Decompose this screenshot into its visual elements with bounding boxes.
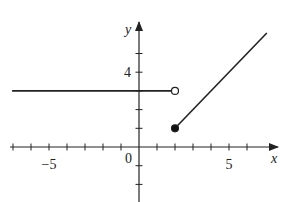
x-tick-label: −5: [42, 157, 57, 172]
filled-circle-point: [172, 125, 179, 132]
axes: [10, 22, 278, 202]
y-axis-label: y: [123, 22, 132, 37]
x-axis-label: x: [270, 151, 278, 166]
x-tick-label: 5: [226, 157, 233, 172]
labels: −5540xy: [42, 22, 278, 172]
piecewise-function-graph: −5540xy: [0, 0, 291, 202]
open-circle-point: [172, 87, 179, 94]
origin-label: 0: [125, 151, 132, 166]
y-tick-label: 4: [124, 65, 131, 80]
series-line: [175, 33, 267, 128]
